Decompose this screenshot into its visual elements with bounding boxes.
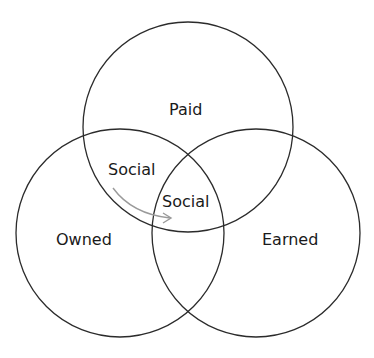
earned-circle — [152, 129, 360, 337]
paid-label: Paid — [169, 100, 202, 120]
social-center-label: Social — [162, 192, 209, 212]
owned-label: Owned — [56, 230, 112, 250]
venn-diagram: Paid Social Social Owned Earned — [0, 0, 374, 358]
earned-label: Earned — [262, 230, 318, 250]
social-overlap-label: Social — [108, 160, 155, 180]
venn-canvas — [0, 0, 374, 358]
